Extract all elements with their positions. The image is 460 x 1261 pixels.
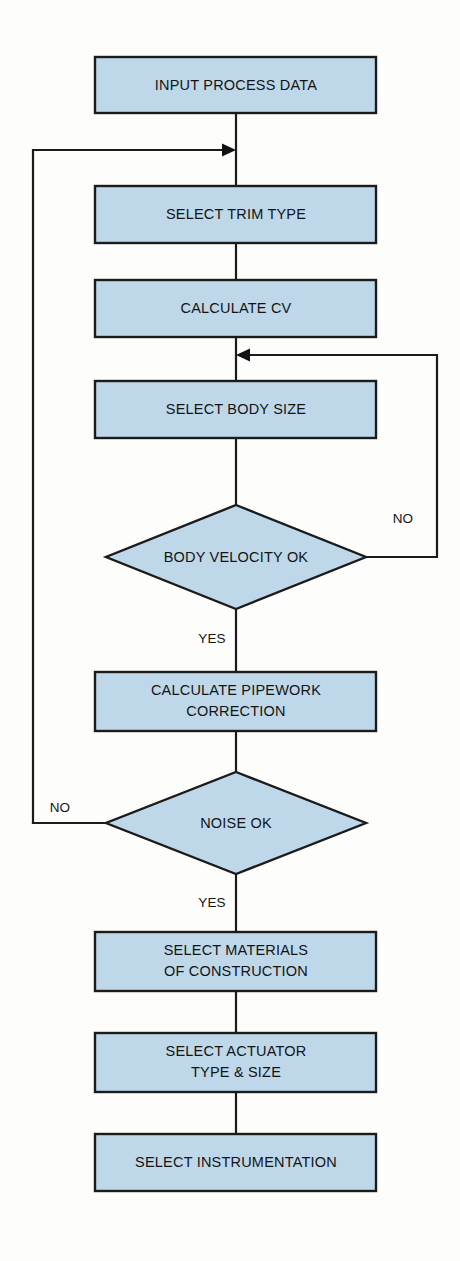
arrow-head-body-velocity-no-loop (236, 349, 250, 362)
node-select-trim-type[interactable]: SELECT TRIM TYPE (95, 186, 376, 243)
node-noise-ok[interactable]: NOISE OK (106, 772, 366, 874)
node-label-calculate-pipework-line2: CORRECTION (186, 703, 285, 719)
node-calculate-cv[interactable]: CALCULATE CV (95, 280, 376, 337)
node-select-instrumentation[interactable]: SELECT INSTRUMENTATION (95, 1134, 376, 1191)
node-label-body-velocity-ok: BODY VELOCITY OK (164, 549, 309, 565)
node-label-select-materials-line1: SELECT MATERIALS (164, 942, 308, 958)
node-label-select-body-size: SELECT BODY SIZE (166, 401, 307, 417)
node-label-select-actuator-line1: SELECT ACTUATOR (166, 1043, 307, 1059)
arrow-head-noise-no-loop (222, 144, 236, 157)
node-calculate-pipework-correction[interactable]: CALCULATE PIPEWORK CORRECTION (95, 672, 376, 731)
node-select-body-size[interactable]: SELECT BODY SIZE (95, 381, 376, 438)
node-label-calculate-pipework-line1: CALCULATE PIPEWORK (151, 682, 321, 698)
node-label-input-process-data: INPUT PROCESS DATA (155, 77, 317, 93)
edge-label-noise-no: NO (50, 800, 71, 815)
node-label-noise-ok: NOISE OK (200, 815, 272, 831)
flowchart-canvas: INPUT PROCESS DATA SELECT TRIM TYPE CALC… (0, 0, 460, 1261)
node-select-actuator-type-size[interactable]: SELECT ACTUATOR TYPE & SIZE (95, 1033, 376, 1092)
edge-label-body-velocity-yes: YES (198, 631, 226, 646)
node-label-calculate-cv: CALCULATE CV (181, 300, 292, 316)
node-label-select-materials-line2: OF CONSTRUCTION (164, 963, 308, 979)
node-label-select-actuator-line2: TYPE & SIZE (191, 1064, 281, 1080)
node-body-velocity-ok[interactable]: BODY VELOCITY OK (106, 505, 366, 609)
node-label-select-trim-type: SELECT TRIM TYPE (166, 206, 306, 222)
edge-label-noise-yes: YES (198, 895, 226, 910)
node-select-materials-of-construction[interactable]: SELECT MATERIALS OF CONSTRUCTION (95, 932, 376, 991)
node-input-process-data[interactable]: INPUT PROCESS DATA (95, 57, 376, 113)
flowchart-page: INPUT PROCESS DATA SELECT TRIM TYPE CALC… (0, 0, 460, 1261)
edge-label-body-velocity-no: NO (393, 511, 414, 526)
node-label-select-instrumentation: SELECT INSTRUMENTATION (135, 1154, 337, 1170)
